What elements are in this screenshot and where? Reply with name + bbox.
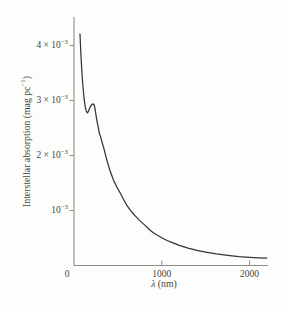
figure-extinction-curve: Interstellar absorption (mag pc−1) λ (nm… [0,0,282,311]
x-tick-label: 2000 [240,268,259,280]
axes-lines [74,17,268,266]
y-tick-label: 3 × 10−3 [8,94,68,106]
interstellar-extinction-curve [80,33,267,258]
y-axis-title: Interstellar absorption (mag pc−1) [20,16,33,266]
x-tick-label: 0 [65,268,70,280]
y-tick-label: 10−3 [8,204,68,216]
y-tick-label: 2 × 10−3 [8,149,68,161]
x-axis-title-unit: (nm) [155,278,177,289]
y-axis-title-close: ) [21,76,32,79]
x-tick-label: 1000 [152,268,171,280]
y-tick-label: 4 × 10−3 [8,39,68,51]
y-axis-title-exponent: −1 [19,79,26,86]
